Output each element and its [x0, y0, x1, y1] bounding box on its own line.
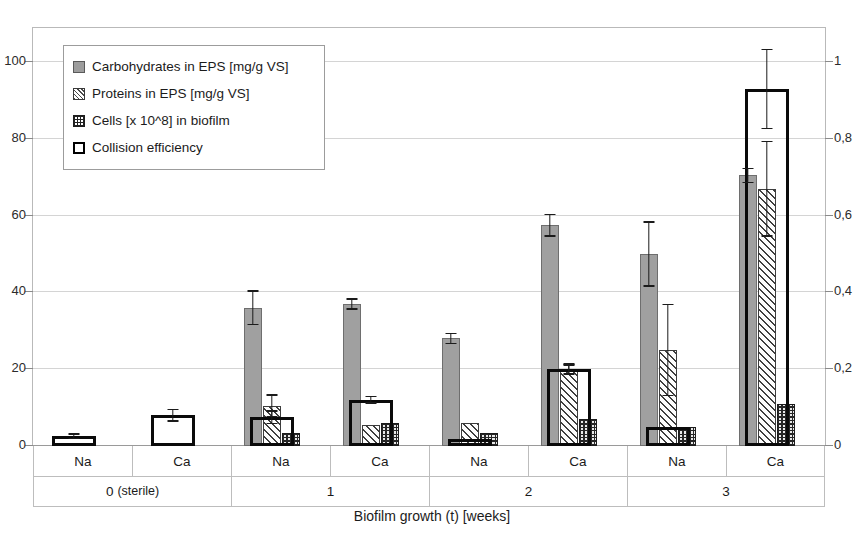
x-axis-category-row: NaCaNaCaNaCaNaCa — [33, 446, 825, 477]
y-tick-label-20: 20 — [0, 360, 26, 375]
errorbar-carbohydrates-w1-ca — [346, 298, 358, 310]
tick-right-0,4 — [825, 291, 833, 292]
tick-left-0 — [25, 445, 33, 446]
gridline-20 — [33, 368, 825, 369]
x-axis-group-0: 0 (sterile) — [33, 476, 231, 506]
errorbar-collision-efficiency-w0-ca — [167, 409, 179, 422]
legend-item-collision-efficiency: Collision efficiency — [73, 134, 315, 161]
legend-label-cells: Cells [x 10^8] in biofilm — [92, 113, 230, 128]
x-axis-label-na-0: Na — [33, 446, 132, 476]
x-axis-label-ca-1: Ca — [132, 446, 231, 476]
tick-left-20 — [25, 368, 33, 369]
x-axis-label-ca-5: Ca — [528, 446, 627, 476]
errorbar-carbohydrates-w2-ca — [544, 214, 556, 237]
errorbar-collision-efficiency-w0-na — [68, 433, 80, 439]
legend-item-proteins: Proteins in EPS [mg/g VS] — [73, 80, 315, 107]
legend-label-proteins: Proteins in EPS [mg/g VS] — [92, 86, 250, 101]
tick-right-0,8 — [825, 138, 833, 139]
y2-tick-label-0-8: 0,8 — [834, 130, 864, 145]
x-axis-label-na-6: Na — [627, 446, 726, 476]
errorbar-collision-efficiency-w2-ca — [563, 364, 575, 374]
cells-swatch-icon — [73, 115, 85, 127]
tick-left-100 — [25, 61, 33, 62]
bar-carbohydrates-w2-na — [442, 338, 460, 446]
errorbar-carbohydrates-w1-na — [247, 290, 259, 325]
x-axis-group-sublabel-0: (sterile) — [117, 484, 159, 498]
x-axis-group-1: 1 — [231, 476, 429, 506]
y-tick-label-80: 80 — [0, 130, 26, 145]
y2-tick-label-0: 0 — [834, 437, 864, 452]
tick-right-0 — [825, 445, 833, 446]
tick-left-80 — [25, 138, 33, 139]
x-axis-group-label-2: 2 — [525, 484, 533, 499]
x-axis-group-3: 3 — [627, 476, 825, 506]
legend-label-carbohydrates: Carbohydrates in EPS [mg/g VS] — [92, 59, 289, 74]
y-tick-label-0: 0 — [0, 437, 26, 452]
legend-item-cells: Cells [x 10^8] in biofilm — [73, 107, 315, 134]
errorbar-proteins-w3-na — [662, 304, 674, 396]
collision-efficiency-swatch-icon — [73, 142, 85, 154]
x-axis-group-label-3: 3 — [722, 484, 730, 499]
chart-root: 020406080100 00,20,40,60,81 Carbohydrate… — [0, 0, 864, 544]
x-axis-group-row: 0 (sterile)123 — [33, 476, 825, 507]
bar-collision-efficiency-w3-na — [646, 427, 690, 446]
x-axis-group-label-1: 1 — [327, 484, 335, 499]
x-axis-group-2: 2 — [429, 476, 627, 506]
x-axis-label-na-4: Na — [429, 446, 528, 476]
x-axis-label-na-2: Na — [231, 446, 330, 476]
errorbar-collision-efficiency-w1-na — [266, 410, 278, 424]
y-tick-label-100: 100 — [0, 53, 26, 68]
y2-tick-label-0-4: 0,4 — [834, 283, 864, 298]
errorbar-proteins-w3-ca — [761, 141, 773, 237]
gridline-60 — [33, 215, 825, 216]
tick-right-1 — [825, 61, 833, 62]
errorbar-carbohydrates-w2-na — [445, 333, 457, 345]
bar-collision-efficiency-w2-ca — [547, 369, 591, 446]
errorbar-carbohydrates-w3-na — [643, 221, 655, 286]
tick-left-60 — [25, 215, 33, 216]
y2-tick-label-0-6: 0,6 — [834, 207, 864, 222]
carbohydrates-swatch-icon — [73, 61, 85, 73]
tick-left-40 — [25, 291, 33, 292]
tick-right-0,6 — [825, 215, 833, 216]
legend-item-carbohydrates: Carbohydrates in EPS [mg/g VS] — [73, 53, 315, 80]
proteins-swatch-icon — [73, 88, 85, 100]
x-axis-label-ca-3: Ca — [330, 446, 429, 476]
x-axis-title: Biofilm growth (t) [weeks] — [0, 508, 864, 524]
y-tick-label-60: 60 — [0, 207, 26, 222]
y2-tick-label-1: 1 — [834, 53, 864, 68]
bar-collision-efficiency-w2-na — [448, 439, 492, 446]
x-axis-label-ca-7: Ca — [726, 446, 825, 476]
legend-label-collision-efficiency: Collision efficiency — [92, 140, 203, 155]
chart-legend: Carbohydrates in EPS [mg/g VS] Proteins … — [63, 45, 325, 170]
x-axis-group-label-0: 0 — [106, 484, 114, 499]
bar-collision-efficiency-w1-ca — [349, 400, 393, 446]
errorbar-collision-efficiency-w3-ca — [761, 49, 773, 130]
errorbar-carbohydrates-w3-ca — [742, 168, 754, 183]
gridline-40 — [33, 291, 825, 292]
y2-tick-label-0-2: 0,2 — [834, 360, 864, 375]
y-tick-label-40: 40 — [0, 283, 26, 298]
tick-right-0,2 — [825, 368, 833, 369]
errorbar-collision-efficiency-w1-ca — [365, 396, 377, 404]
